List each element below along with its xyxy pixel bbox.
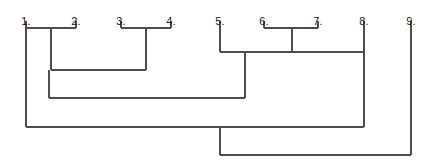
leaf-label-5: 5. bbox=[215, 16, 225, 27]
leaf-stem-layer bbox=[26, 28, 411, 155]
leaf-label-2: 2. bbox=[71, 16, 81, 27]
leaf-label-3: 3. bbox=[116, 16, 126, 27]
dendrogram-figure: 1.2.3.4.5.6.7.8.9. bbox=[0, 0, 440, 165]
leaf-label-7: 7. bbox=[313, 16, 323, 27]
merge-link-layer bbox=[26, 28, 411, 156]
leaf-label-8: 8. bbox=[359, 16, 369, 27]
leaf-label-1: 1. bbox=[21, 16, 31, 27]
leaf-label-4: 4. bbox=[166, 16, 176, 27]
leaf-label-6: 6. bbox=[259, 16, 269, 27]
leaf-label-9: 9. bbox=[406, 16, 416, 27]
